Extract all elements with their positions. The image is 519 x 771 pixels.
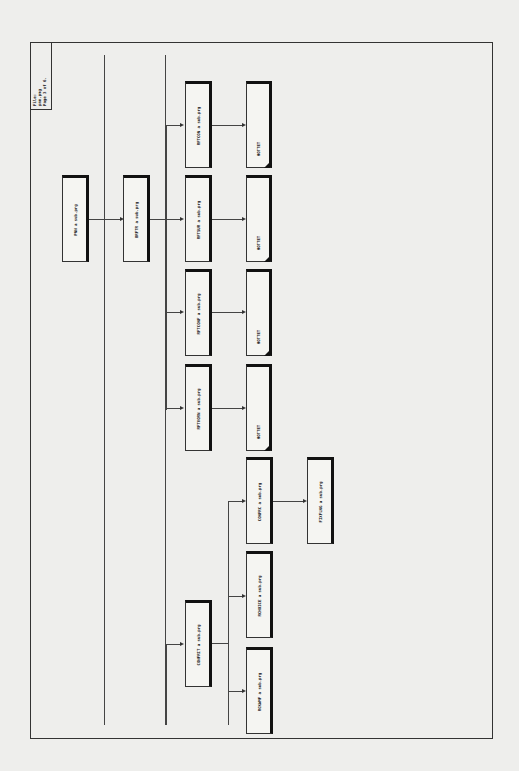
node-label: HOTTET	[256, 236, 261, 250]
node-label: HOTTET	[256, 330, 261, 344]
connector	[273, 501, 305, 502]
arrow-head-icon	[180, 310, 184, 314]
connector	[150, 219, 165, 220]
node-label: RCHOICE a sub.prg	[256, 575, 261, 616]
node-confrit[interactable]: CONFRIT a sub.prg	[185, 600, 212, 687]
connector	[212, 219, 244, 220]
node-rftsur[interactable]: RFTSUR a sub.prg	[185, 175, 212, 262]
node-rftcon[interactable]: RFTCON a sub.prg	[185, 81, 212, 168]
connector	[212, 125, 244, 126]
node-label: HOTTET	[256, 142, 261, 156]
connector	[212, 312, 244, 313]
arrow-head-icon	[180, 217, 184, 221]
node-label: RFTCONF a sub.prg	[195, 293, 200, 334]
node-label: RFTVORN a sub.prg	[195, 388, 200, 429]
connector	[212, 408, 244, 409]
node-pnn[interactable]: PNN a sub.prg	[62, 175, 89, 262]
node-rckwmf[interactable]: RCKWMF a sub.prg	[246, 647, 273, 734]
node-label: HOTTET	[256, 425, 261, 439]
branch-line	[166, 125, 167, 410]
node-hottet-3[interactable]: HOTTET	[246, 269, 272, 356]
node-rftconf[interactable]: RFTCONF a sub.prg	[185, 269, 212, 356]
node-confrc[interactable]: CONFRC a sub.prg	[246, 457, 273, 544]
branch-line	[166, 644, 167, 725]
node-hottet-1[interactable]: HOTTET	[246, 81, 272, 168]
node-brftr[interactable]: BRFTR a sub.prg	[123, 175, 150, 262]
arrow-head-icon	[180, 123, 184, 127]
level-line-1	[104, 55, 105, 725]
file-info-box: File: pnn.pmg Page 3 of 6.	[30, 42, 52, 110]
node-label: PNN a sub.prg	[72, 204, 77, 235]
node-fixflng[interactable]: FIXFLNG a sub.prg	[307, 457, 334, 544]
file-info-text: File: pnn.pmg Page 3 of 6.	[32, 77, 47, 106]
node-label: FIXFLNG a sub.prg	[317, 481, 322, 522]
connector	[89, 219, 122, 220]
node-hottet-4[interactable]: HOTTET	[246, 364, 272, 451]
node-rchoice[interactable]: RCHOICE a sub.prg	[246, 551, 273, 638]
node-label: RFTSUR a sub.prg	[195, 200, 200, 239]
node-hottet-2[interactable]: HOTTET	[246, 175, 272, 262]
arrow-head-icon	[180, 642, 184, 646]
node-label: RFTCON a sub.prg	[195, 106, 200, 145]
node-label: CONFRIT a sub.prg	[195, 624, 200, 665]
node-label: BRFTR a sub.prg	[133, 201, 138, 237]
arrow-head-icon	[180, 406, 184, 410]
node-label: RCKWMF a sub.prg	[256, 672, 261, 711]
node-rftvorn[interactable]: RFTVORN a sub.prg	[185, 364, 212, 451]
connector	[212, 643, 228, 644]
node-label: CONFRC a sub.prg	[256, 482, 261, 521]
